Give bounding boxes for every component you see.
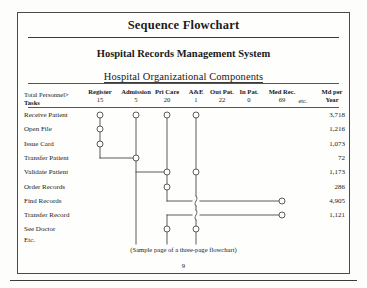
document-page: Sequence Flowchart Hospital Records Mana…	[0, 0, 367, 288]
flow-node-pri-care	[164, 169, 170, 175]
flow-node-pri-care	[164, 184, 170, 190]
ae-crossing-find-records	[195, 196, 197, 206]
flow-node-register	[97, 112, 103, 118]
bottom-divider	[10, 280, 357, 281]
flow-node-pri-care	[164, 112, 170, 118]
flow-node-a-e	[193, 112, 199, 118]
flow-node-med-rec	[279, 198, 285, 204]
flow-node-admission	[133, 112, 139, 118]
flow-node-a-e	[193, 169, 199, 175]
flow-node-admission	[133, 155, 139, 161]
flow-node-pri-care	[164, 226, 170, 232]
page-number: 9	[17, 262, 350, 269]
flow-node-register	[97, 141, 103, 147]
figure-caption: (Sample page of a three-page flowchart)	[17, 246, 350, 253]
flow-node-register	[97, 126, 103, 132]
sequence-flowchart-graphic	[0, 0, 367, 288]
ae-crossing-transfer-record	[195, 210, 197, 220]
flow-node-med-rec	[279, 212, 285, 218]
flow-node-a-e	[193, 226, 199, 232]
